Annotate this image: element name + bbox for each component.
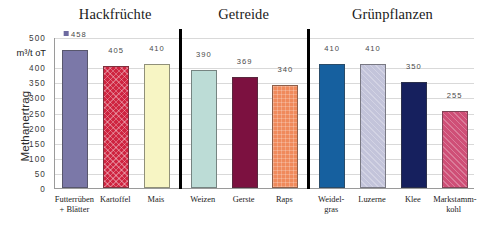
x-axis-label: Klee: [392, 195, 433, 205]
bar-slot: 369: [224, 38, 265, 188]
bar-slot: 410: [137, 38, 178, 188]
x-axis-label: Gerste: [223, 195, 264, 205]
bar-slot: 340: [265, 38, 306, 188]
x-axis-label: Raps: [264, 195, 305, 205]
group-divider: [179, 29, 182, 189]
y-tick-300: 300: [0, 94, 46, 103]
bar-value-label: 255: [447, 91, 463, 101]
bar[interactable]: [319, 64, 345, 188]
bar-value-label: 458: [64, 30, 87, 40]
y-tick-200: 200: [0, 124, 46, 133]
bar[interactable]: [144, 64, 170, 188]
bar[interactable]: [191, 70, 217, 188]
bar[interactable]: [62, 50, 88, 188]
x-axis-label: Kartoffel: [95, 195, 136, 205]
y-tick-350: 350: [0, 79, 46, 88]
bar-value-label: 390: [196, 50, 212, 60]
bar[interactable]: [401, 82, 427, 188]
bar-value-label: 405: [108, 46, 124, 56]
series-marker-icon: [64, 31, 69, 36]
y-tick-100: 100: [0, 154, 46, 163]
plot-area: 458405410390369340410410350255: [54, 38, 474, 189]
bar[interactable]: [442, 111, 468, 188]
bar-slot: 458: [55, 38, 96, 188]
y-tick-50: 50: [0, 169, 46, 178]
bar-slot: 410: [353, 38, 394, 188]
bar-value-label: 410: [149, 44, 165, 54]
x-axis-label: Futterrüben + Blätter: [54, 195, 95, 215]
y-tick-0: 0: [0, 185, 46, 194]
bar-slot: 390: [183, 38, 224, 188]
y-tick-500: 500: [0, 34, 46, 43]
bar-slot: 405: [96, 38, 137, 188]
bar[interactable]: [360, 64, 386, 188]
x-axis-label: Luzerne: [352, 195, 393, 205]
y-tick-400: 400: [0, 64, 46, 73]
bar-value-label: 410: [324, 44, 340, 54]
bar-value-label: 369: [237, 57, 253, 67]
bar-value-text: 458: [71, 30, 87, 39]
bar-slot: 410: [312, 38, 353, 188]
y-tick-250: 250: [0, 109, 46, 118]
bar[interactable]: [272, 85, 298, 188]
y-tick-150: 150: [0, 139, 46, 148]
x-axis-label: Mais: [136, 195, 177, 205]
x-axis-label: Weizen: [182, 195, 223, 205]
x-axis-label: Weidel- gras: [311, 195, 352, 215]
y-axis-unit-label: m³/t oT: [0, 48, 46, 58]
bar-value-label: 410: [365, 44, 381, 54]
bar[interactable]: [232, 77, 258, 188]
group-title-gruenpflanzen: Grünpflanzen: [292, 6, 481, 23]
bar-value-label: 350: [406, 62, 422, 72]
bar[interactable]: [103, 66, 129, 188]
group-divider: [307, 29, 310, 189]
bar-value-label: 340: [278, 65, 294, 75]
x-axis-label: Markstamm- kohl: [433, 195, 474, 215]
bar-slot: 350: [393, 38, 434, 188]
methane-yield-chart: Hackfrüchte Getreide Grünpflanzen Methan…: [0, 0, 481, 245]
bar-slot: 255: [434, 38, 475, 188]
